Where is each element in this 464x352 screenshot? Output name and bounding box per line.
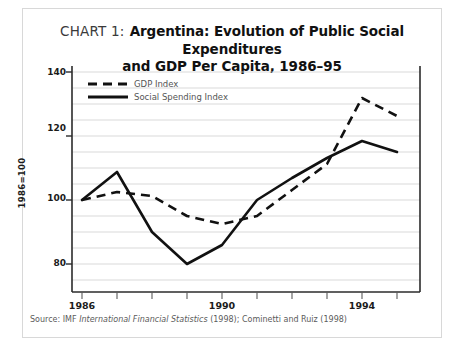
legend-label-gdp-index: GDP Index xyxy=(134,79,178,89)
source-suffix: (1998); Cominetti and Ruiz (1998) xyxy=(208,315,347,324)
series-gdp-index xyxy=(82,98,397,224)
plot-area: 1986=100 140 120 100 80 1986 1990 1994 xyxy=(0,0,464,352)
legend-swatches xyxy=(88,84,128,97)
series-social-spending-index xyxy=(82,141,397,264)
y-axis-label: 1986=100 xyxy=(17,143,27,223)
chart-figure: CHART 1: Argentina: Evolution of Public … xyxy=(0,0,464,352)
x-tick-1994: 1994 xyxy=(332,300,392,311)
y-tick-100: 100 xyxy=(40,193,66,203)
source-italic-title: International Financial Statistics xyxy=(79,315,207,324)
x-tick-1986: 1986 xyxy=(52,300,112,311)
x-axis-ticks xyxy=(82,292,397,299)
y-tick-120: 120 xyxy=(40,123,66,133)
y-tick-80: 80 xyxy=(40,258,66,268)
x-tick-1990: 1990 xyxy=(192,300,252,311)
source-note: Source: IMF International Financial Stat… xyxy=(30,315,347,324)
source-prefix: Source: IMF xyxy=(30,315,79,324)
gridlines xyxy=(72,72,420,280)
legend-label-social-spending-index: Social Spending Index xyxy=(134,92,228,102)
y-axis-ticks xyxy=(66,72,72,264)
y-tick-140: 140 xyxy=(40,67,66,77)
